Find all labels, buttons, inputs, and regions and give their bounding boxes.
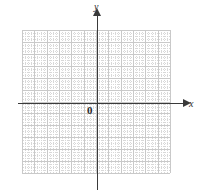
origin-label: 0 [87, 105, 93, 116]
grid-major-horizontal [22, 42, 170, 43]
y-axis-line [97, 15, 98, 190]
grid-major-horizontal [22, 149, 170, 150]
grid-major-horizontal [22, 30, 170, 31]
grid-major-horizontal [22, 113, 170, 114]
grid-major-vertical [170, 30, 171, 173]
grid-major-horizontal [22, 137, 170, 138]
grid-major-horizontal [22, 173, 170, 174]
y-axis-label: y [94, 2, 98, 12]
grid-major-horizontal [22, 54, 170, 55]
coordinate-plane-figure: y x 0 [0, 0, 201, 194]
grid-area [22, 30, 170, 173]
x-axis-label: x [189, 99, 193, 109]
x-axis-line [18, 103, 184, 104]
grid-major-horizontal [22, 125, 170, 126]
grid-major-horizontal [22, 90, 170, 91]
grid-major-horizontal [22, 66, 170, 67]
grid-major-horizontal [22, 78, 170, 79]
grid-major-horizontal [22, 161, 170, 162]
